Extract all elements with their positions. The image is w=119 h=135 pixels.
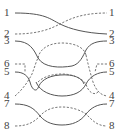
- left-label-1: 1: [4, 7, 10, 18]
- upper-ellipse-dashed: [38, 43, 86, 58]
- strand-diagram: 1 2 3 6 5 4 7 8 1 2 3 6 5 4 7 8: [0, 0, 119, 135]
- strand-3-solid: [15, 41, 107, 67]
- strand-4-right-dashed: [86, 55, 107, 96]
- middle-ellipse-dashed: [38, 74, 98, 94]
- right-label-3: 3: [109, 35, 115, 46]
- left-label-3: 3: [4, 35, 10, 46]
- strand-2-dashed: [15, 13, 107, 34]
- strand-8-dashed: [15, 107, 107, 126]
- left-label-7: 7: [4, 98, 10, 109]
- right-label-7: 7: [109, 98, 115, 109]
- right-label-1: 1: [109, 7, 115, 18]
- left-label-8: 8: [4, 120, 10, 131]
- strand-5-left-solid: [15, 72, 84, 90]
- right-label-8: 8: [109, 120, 115, 131]
- strand-1-solid: [15, 13, 107, 34]
- right-label-5: 5: [109, 66, 115, 77]
- strand-6-left-dashed: [15, 64, 25, 72]
- strand-6-right-dashed: [95, 64, 107, 72]
- strand-lines: [0, 0, 119, 135]
- left-label-5: 5: [4, 66, 10, 77]
